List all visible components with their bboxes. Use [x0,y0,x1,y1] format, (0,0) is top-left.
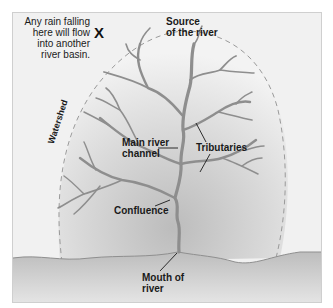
source-label: Source of the river [166,16,218,38]
note-line: into another [16,38,90,49]
outside-basin-marker: X [94,24,104,41]
mouth-of-river-label: Mouth of river [142,272,184,294]
note-line: here will flow [16,27,90,38]
tributaries-label: Tributaries [196,142,247,153]
note-line: river basin. [16,49,90,60]
main-river-channel-label: Main river channel [122,137,169,159]
confluence-label: Confluence [114,205,168,216]
note-line: Any rain falling [16,16,90,27]
other-basin-note: Any rain falling here will flow into ano… [16,16,90,60]
